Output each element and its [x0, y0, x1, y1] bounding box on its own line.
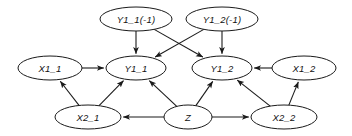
- node-y1_1[interactable]: Y1_1: [106, 56, 166, 80]
- node-x2_1[interactable]: X2_1: [55, 105, 121, 129]
- diagram-canvas: Y1_1(-1)Y1_2(-1)X1_1Y1_1Y1_2X1_2X2_1ZX2_…: [0, 0, 352, 136]
- edge-x2_1-to-x1_1: [60, 81, 79, 105]
- node-label-y1_1: Y1_1: [125, 63, 148, 74]
- edge-x2_2-to-y1_2: [237, 80, 270, 106]
- node-label-x2_1: X2_1: [76, 112, 100, 123]
- node-y1_1_lag[interactable]: Y1_1(-1): [100, 7, 172, 31]
- node-label-x1_2: X1_2: [292, 63, 317, 74]
- node-label-x1_1: X1_1: [38, 63, 62, 74]
- node-label-z: Z: [184, 112, 192, 123]
- edge-z-to-y1_1: [149, 81, 176, 107]
- node-z[interactable]: Z: [164, 105, 212, 129]
- node-x2_2[interactable]: X2_2: [251, 105, 317, 129]
- node-label-y1_2_lag: Y1_2(-1): [203, 14, 242, 25]
- edge-layer: [60, 29, 298, 117]
- edge-x2_2-to-x1_2: [289, 82, 298, 105]
- edge-z-to-y1_2: [196, 81, 213, 105]
- node-y1_2_lag[interactable]: Y1_2(-1): [186, 7, 258, 31]
- node-layer: Y1_1(-1)Y1_2(-1)X1_1Y1_1Y1_2X1_2X2_1ZX2_…: [18, 7, 336, 129]
- node-label-x2_2: X2_2: [272, 112, 297, 123]
- edge-x2_1-to-y1_1: [99, 81, 123, 106]
- node-x1_2[interactable]: X1_2: [272, 56, 336, 80]
- directed-graph: Y1_1(-1)Y1_2(-1)X1_1Y1_1Y1_2X1_2X2_1ZX2_…: [0, 0, 352, 136]
- node-label-y1_2: Y1_2: [211, 63, 235, 74]
- node-label-y1_1_lag: Y1_1(-1): [117, 14, 156, 25]
- node-x1_1[interactable]: X1_1: [18, 56, 82, 80]
- node-y1_2[interactable]: Y1_2: [192, 56, 252, 80]
